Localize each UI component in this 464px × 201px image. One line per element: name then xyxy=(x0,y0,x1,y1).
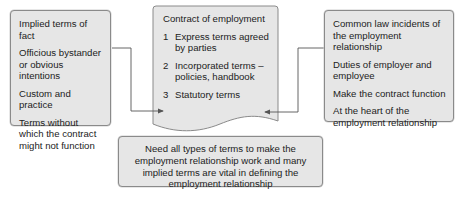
contract-item: 1 Express terms agreed by parties xyxy=(163,31,275,54)
left-item: Officious bystander or obvious intention… xyxy=(19,47,104,82)
common-law-incidents-box: Common law incidents of the employment r… xyxy=(324,10,454,122)
left-item: Terms without which the contract might n… xyxy=(19,117,104,152)
contract-item: 2 Incorporated terms – policies, handboo… xyxy=(163,60,275,83)
contract-item: 3 Statutory terms xyxy=(163,89,275,101)
right-item: Make the contract function xyxy=(333,88,447,100)
left-item: Custom and practice xyxy=(19,88,104,111)
right-item: Duties of employer and employee xyxy=(333,59,447,82)
contract-document-text: Contract of employment 1 Express terms a… xyxy=(163,13,275,106)
right-item: At the heart of the employment relations… xyxy=(333,105,447,128)
summary-box: Need all types of terms to make the empl… xyxy=(118,136,323,187)
contract-title: Contract of employment xyxy=(163,13,275,25)
right-item: Common law incidents of the employment r… xyxy=(333,18,447,53)
implied-terms-fact-box: Implied terms of fact Officious bystande… xyxy=(10,10,111,126)
summary-text: Need all types of terms to make the empl… xyxy=(135,143,307,189)
left-item: Implied terms of fact xyxy=(19,18,104,41)
